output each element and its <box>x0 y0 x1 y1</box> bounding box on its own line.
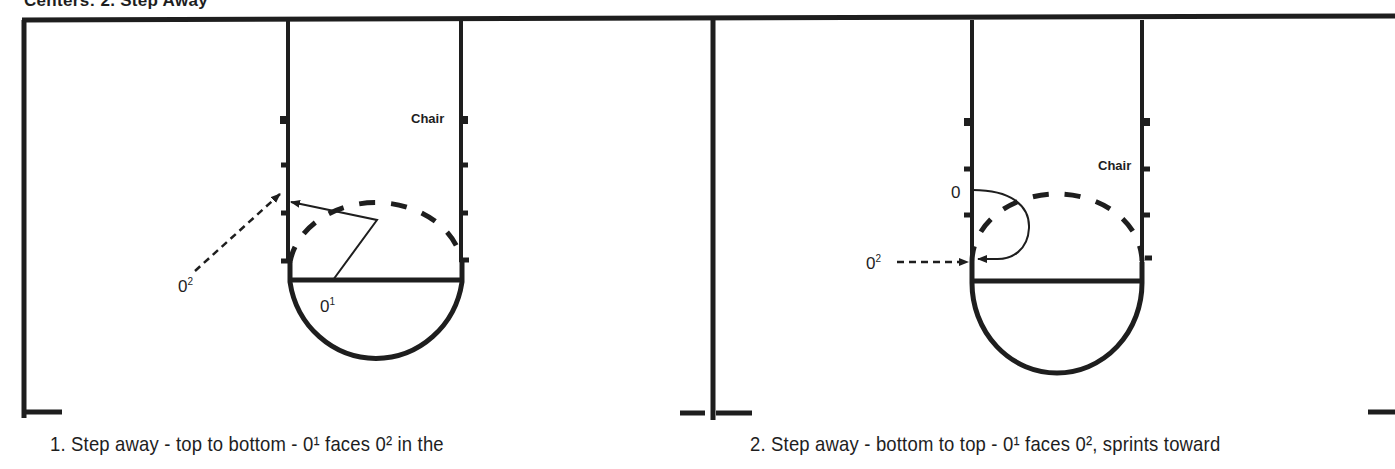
diagram-2 <box>897 20 1152 373</box>
chair-label-1: Chair <box>411 111 444 126</box>
caption-1: 1. Step away - top to bottom - 0¹ faces … <box>50 432 444 456</box>
court-diagrams <box>0 0 1395 469</box>
chair-label-2: Chair <box>1098 158 1131 173</box>
player-o1-label-2: 0 <box>951 182 960 203</box>
player-o2-label-1: 02 <box>178 276 193 297</box>
baseline <box>22 16 1395 20</box>
caption-2: 2. Step away - bottom to top - 0¹ faces … <box>750 432 1220 456</box>
player-o1-label-1: 01 <box>320 296 335 317</box>
player-o2-label-2: 02 <box>866 253 881 274</box>
